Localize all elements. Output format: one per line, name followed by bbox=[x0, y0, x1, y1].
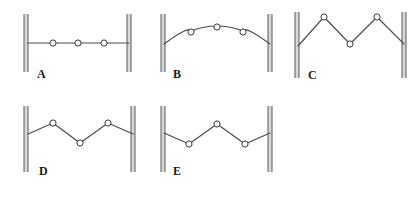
wall-right-d-body bbox=[131, 106, 135, 172]
bead-b-2 bbox=[214, 24, 220, 30]
bead-c-1 bbox=[321, 14, 327, 20]
wall-left-a-body bbox=[24, 14, 28, 72]
wall-left-e-body bbox=[161, 106, 165, 172]
bead-e-3 bbox=[242, 141, 248, 147]
wall-left-a bbox=[24, 14, 28, 72]
wall-left-d bbox=[24, 106, 28, 172]
wall-left-d-body bbox=[24, 106, 28, 172]
bead-d-3 bbox=[105, 120, 111, 126]
wall-left-e bbox=[161, 106, 165, 172]
panel-label-c: C bbox=[308, 68, 317, 82]
bead-b-1 bbox=[188, 29, 194, 35]
bead-a-3 bbox=[101, 40, 107, 46]
wall-right-d bbox=[131, 106, 135, 172]
bead-c-2 bbox=[347, 41, 353, 47]
bead-b-3 bbox=[240, 29, 246, 35]
wall-right-e bbox=[268, 106, 272, 172]
bead-d-2 bbox=[77, 140, 83, 146]
bead-e-2 bbox=[214, 121, 220, 127]
wall-right-e-body bbox=[268, 106, 272, 172]
panel-label-d: D bbox=[39, 164, 48, 178]
figure-root: ABCDE bbox=[0, 0, 419, 198]
bead-a-1 bbox=[50, 40, 56, 46]
panel-label-a: A bbox=[37, 67, 46, 81]
wall-right-c-body bbox=[402, 12, 406, 78]
bead-c-3 bbox=[374, 14, 380, 20]
standing-wave-modes-diagram: ABCDE bbox=[0, 0, 419, 198]
bead-d-1 bbox=[50, 120, 56, 126]
bead-e-1 bbox=[186, 141, 192, 147]
bead-a-2 bbox=[75, 40, 81, 46]
wall-right-c bbox=[402, 12, 406, 78]
panel-label-b: B bbox=[173, 67, 181, 81]
figure-background bbox=[0, 0, 419, 198]
panel-label-e: E bbox=[173, 164, 181, 178]
